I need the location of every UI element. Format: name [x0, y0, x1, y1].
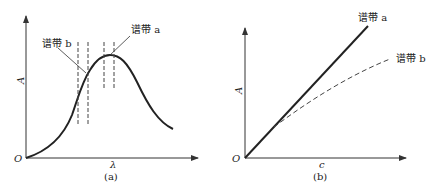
line-band-a [245, 26, 368, 158]
curve-band-b [274, 59, 390, 127]
x-label: c [319, 159, 325, 170]
leader-b [58, 48, 86, 73]
panel-b: 谱带 a 谱带 b O A c (b) [232, 11, 426, 182]
y-label: A [15, 77, 26, 85]
label-band-a: 谱带 a [131, 23, 160, 35]
caption-a: (a) [104, 171, 118, 182]
origin-label: O [14, 153, 22, 164]
spectrum-curve [26, 55, 173, 158]
label-band-b: 谱带 b [396, 52, 426, 64]
label-band-b: 谱带 b [42, 37, 72, 49]
origin-label: O [232, 153, 240, 164]
y-label: A [233, 87, 244, 95]
caption-b: (b) [313, 171, 327, 182]
figure: 谱带 b 谱带 a O A λ (a) 谱带 a 谱带 b O A c (b) [0, 0, 431, 194]
label-band-a: 谱带 a [358, 11, 387, 23]
panel-a: 谱带 b 谱带 a O A λ (a) [14, 16, 198, 182]
x-label: λ [109, 159, 116, 170]
leader-a [109, 36, 130, 56]
